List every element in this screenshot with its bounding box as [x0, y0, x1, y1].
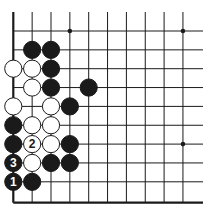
- black-stone-move-3: 3: [5, 154, 22, 171]
- black-stone-icon: [24, 41, 41, 58]
- black-stone-icon: [61, 136, 78, 153]
- black-stone: [42, 79, 59, 96]
- black-stone-icon: [80, 79, 97, 96]
- white-stone-icon: [24, 117, 41, 134]
- white-stone: [42, 136, 59, 153]
- black-stone: [42, 154, 59, 171]
- black-stone-icon: [61, 154, 78, 171]
- move-number-label: 1: [10, 175, 17, 189]
- white-stone: [42, 98, 59, 115]
- white-stone: [42, 117, 59, 134]
- black-stone-icon: [61, 98, 78, 115]
- black-stone-icon: [42, 60, 59, 77]
- white-stone-icon: [42, 98, 59, 115]
- black-stone: [42, 41, 59, 58]
- white-stone-icon: [42, 136, 59, 153]
- black-stone-move-1: 1: [5, 173, 22, 190]
- black-stone: [42, 60, 59, 77]
- black-stone: [24, 173, 41, 190]
- white-stone: [24, 60, 41, 77]
- black-stone: [61, 136, 78, 153]
- black-stone-icon: [5, 117, 22, 134]
- star-point-icon: [181, 142, 186, 147]
- white-stone-icon: [24, 79, 41, 96]
- white-stone-icon: [5, 98, 22, 115]
- black-stone: [5, 136, 22, 153]
- black-stone: [61, 98, 78, 115]
- white-stone: [24, 117, 41, 134]
- white-stone-move-2: 2: [24, 136, 41, 153]
- white-stone: [5, 98, 22, 115]
- move-number-label: 2: [29, 137, 36, 151]
- black-stone: [80, 79, 97, 96]
- board-grid: [13, 12, 203, 203]
- black-stone-icon: [42, 79, 59, 96]
- black-stone-icon: [42, 154, 59, 171]
- black-stone: [61, 154, 78, 171]
- white-stone: [5, 60, 22, 77]
- white-stone-icon: [24, 154, 41, 171]
- black-stone-icon: [42, 41, 59, 58]
- star-point-icon: [181, 29, 186, 34]
- black-stone-icon: [24, 173, 41, 190]
- black-stone-icon: [5, 136, 22, 153]
- white-stone-icon: [42, 117, 59, 134]
- white-stone: [24, 154, 41, 171]
- white-stone-icon: [5, 60, 22, 77]
- star-point-icon: [68, 29, 73, 34]
- white-stone: [24, 79, 41, 96]
- go-board-diagram: 231: [0, 0, 205, 211]
- move-number-label: 3: [10, 156, 17, 170]
- black-stone: [24, 41, 41, 58]
- black-stone: [5, 117, 22, 134]
- white-stone-icon: [24, 60, 41, 77]
